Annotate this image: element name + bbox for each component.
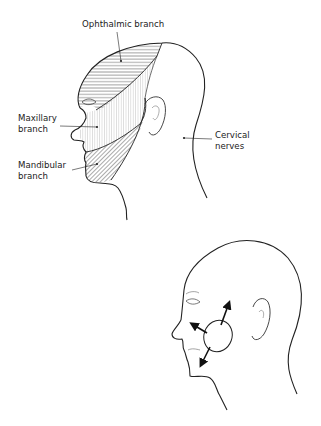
top-head bbox=[60, 32, 212, 220]
trigeminal-diagram: Ophthalmic branch Maxillary branch Mandi… bbox=[0, 0, 321, 426]
cervical-nerves-label-2: nerves bbox=[215, 141, 244, 151]
head-drawings bbox=[0, 0, 321, 426]
arrow-down-left bbox=[201, 347, 210, 365]
mandibular-branch-label-1: Mandibular bbox=[18, 160, 66, 170]
maxillary-branch-label-2: branch bbox=[18, 124, 48, 134]
ophthalmic-branch-label: Ophthalmic branch bbox=[82, 19, 164, 29]
maxillary-branch-label-1: Maxillary bbox=[18, 113, 57, 123]
arrow-left-up bbox=[192, 324, 207, 333]
cervical-nerves-label-1: Cervical bbox=[215, 130, 250, 140]
mandibular-branch-label-2: branch bbox=[18, 171, 48, 181]
parotid-ellipse bbox=[199, 316, 236, 356]
bottom-head bbox=[172, 241, 301, 410]
